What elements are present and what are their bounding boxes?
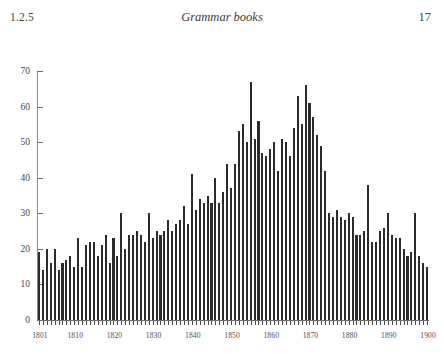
bar xyxy=(171,231,173,320)
x-axis-tick xyxy=(137,321,138,325)
bar xyxy=(285,142,287,320)
y-axis-tick-label: 60 xyxy=(0,103,30,113)
bar xyxy=(101,245,103,320)
bar xyxy=(58,270,60,320)
x-axis-tick xyxy=(70,321,71,325)
bar xyxy=(50,263,52,320)
x-axis-tick xyxy=(227,321,228,325)
x-axis-tick xyxy=(313,321,314,325)
bar xyxy=(246,142,248,320)
x-axis-tick xyxy=(419,321,420,325)
x-axis-tick xyxy=(192,321,193,325)
x-axis-tick-label: 1870 xyxy=(303,331,319,340)
bar xyxy=(336,210,338,320)
x-axis-tick xyxy=(215,321,216,325)
x-axis-tick-label: 1860 xyxy=(263,331,279,340)
x-axis-tick xyxy=(188,321,189,325)
bar xyxy=(312,117,314,320)
bar xyxy=(387,213,389,320)
x-axis-tick xyxy=(78,321,79,325)
bar xyxy=(277,171,279,320)
bar xyxy=(340,217,342,320)
bar xyxy=(352,217,354,320)
bar xyxy=(265,156,267,320)
bar xyxy=(414,213,416,320)
x-axis-tick xyxy=(255,321,256,325)
bar xyxy=(175,224,177,320)
bar xyxy=(359,235,361,320)
bar xyxy=(320,146,322,320)
bar xyxy=(218,203,220,320)
bar xyxy=(207,196,209,321)
x-axis-tick xyxy=(160,321,161,325)
x-axis-tick xyxy=(423,321,424,325)
bar xyxy=(81,267,83,320)
bar xyxy=(261,153,263,320)
histogram-chart: 0102030405060701801181018201830184018501… xyxy=(0,0,444,361)
bar xyxy=(328,213,330,320)
bar xyxy=(250,82,252,320)
bar xyxy=(403,249,405,320)
x-axis-tick xyxy=(266,321,267,325)
x-axis-tick xyxy=(333,321,334,325)
x-axis-tick xyxy=(262,321,263,325)
x-axis-tick-label: 1840 xyxy=(185,331,201,340)
x-axis-tick xyxy=(196,321,197,325)
x-axis-tick xyxy=(200,321,201,325)
x-axis-tick xyxy=(219,321,220,325)
x-axis-tick-label: 1890 xyxy=(381,331,397,340)
bar xyxy=(222,192,224,320)
bar xyxy=(93,242,95,320)
bar xyxy=(128,235,130,320)
x-axis-tick xyxy=(106,321,107,325)
bar xyxy=(269,149,271,320)
x-axis-tick xyxy=(404,321,405,325)
bar xyxy=(375,242,377,320)
bar xyxy=(152,238,154,320)
y-axis-tick-label: 40 xyxy=(0,174,30,184)
bar xyxy=(85,245,87,320)
bar xyxy=(183,206,185,320)
x-axis-tick xyxy=(247,321,248,325)
bar xyxy=(69,256,71,320)
bar xyxy=(54,249,56,320)
bar xyxy=(144,242,146,320)
x-axis-tick xyxy=(258,321,259,325)
x-axis-tick xyxy=(235,321,236,325)
x-axis-tick xyxy=(168,321,169,325)
x-axis-tick xyxy=(43,321,44,325)
x-axis-tick xyxy=(415,321,416,325)
x-axis-tick xyxy=(294,321,295,325)
x-axis-tick xyxy=(302,321,303,325)
y-axis-tick xyxy=(37,249,43,250)
x-axis-tick xyxy=(380,321,381,325)
bar xyxy=(371,242,373,320)
bar xyxy=(109,263,111,320)
bar xyxy=(195,210,197,320)
bar xyxy=(344,220,346,320)
x-axis-tick xyxy=(411,321,412,325)
y-axis-tick-label: 0 xyxy=(0,316,30,326)
x-axis-tick xyxy=(349,321,350,325)
plot-area: 0102030405060701801181018201830184018501… xyxy=(0,0,444,361)
x-axis-tick xyxy=(376,321,377,325)
x-axis-tick-label: 1900 xyxy=(420,331,436,340)
x-axis-tick xyxy=(94,321,95,325)
bar xyxy=(332,217,334,320)
x-axis-tick-label: 1801 xyxy=(32,331,48,340)
x-axis-tick xyxy=(274,321,275,325)
bar xyxy=(38,252,40,320)
bar xyxy=(187,224,189,320)
bar xyxy=(148,213,150,320)
x-axis-tick xyxy=(345,321,346,325)
bar xyxy=(210,203,212,320)
bar xyxy=(116,256,118,320)
bar xyxy=(132,235,134,320)
bar xyxy=(199,199,201,320)
bar xyxy=(281,139,283,320)
x-axis-tick xyxy=(360,321,361,325)
page: 1.2.5 Grammar books 17 01020304050607018… xyxy=(0,0,444,361)
x-axis-tick xyxy=(282,321,283,325)
x-axis-tick xyxy=(39,321,40,325)
x-axis-tick xyxy=(184,321,185,325)
